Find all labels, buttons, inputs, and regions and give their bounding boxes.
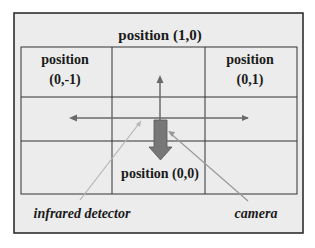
cell-label-position-0-0: position (0,0) xyxy=(121,166,199,182)
cell-label-position-0-1: position xyxy=(226,52,274,67)
infrared-detector-label: infrared detector xyxy=(34,206,131,221)
camera-label: camera xyxy=(235,206,278,221)
title-position-1-0: position (1,0) xyxy=(118,27,201,44)
position-grid-diagram: position (1,0) position (0,-1) position … xyxy=(0,0,315,248)
cell-label-coord-0-1: (0,1) xyxy=(237,72,264,88)
cell-label-coord-0-neg1: (0,-1) xyxy=(49,72,81,88)
cell-label-position-0-neg1: position xyxy=(41,52,89,67)
